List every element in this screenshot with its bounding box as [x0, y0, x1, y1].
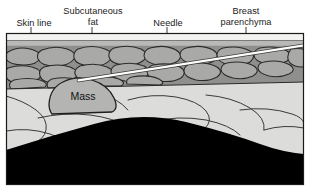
dermis-band [6, 41, 304, 46]
anatomy-illustration: Mass [0, 0, 310, 191]
illustration-body: Mass [5, 33, 310, 185]
label-subcutaneous-fat: Subcutaneous fat [50, 6, 136, 27]
label-needle: Needle [137, 18, 199, 29]
label-breast-parenchyma: Breast parenchyma [198, 6, 294, 27]
mass-label: Mass [70, 90, 95, 102]
skin-line-band [6, 33, 304, 41]
figure-canvas: Skin line Subcutaneous fat Needle Breast… [0, 0, 310, 191]
